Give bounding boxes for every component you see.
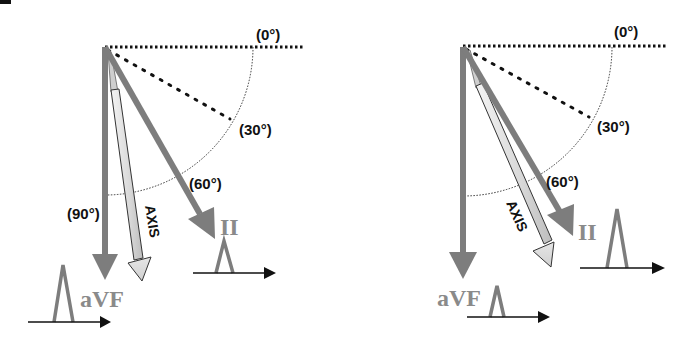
lead-ii-label: II [578,219,597,245]
corner-mark [0,0,11,4]
axis-arrow [467,50,554,267]
axis-label: AXIS [142,204,163,239]
label-30-degrees: (30°) [239,121,272,138]
hexaxial-diagram: (0°) (30°) (60°) (90°) AXIS II aVF [0,0,684,355]
panel-right: (0°) (30°) (60°) AXIS II aVF [437,23,668,323]
panel-left: (0°) (30°) (60°) (90°) AXIS II aVF [28,26,305,328]
time-arrow-icon [264,267,276,279]
time-arrow-icon [538,311,550,323]
lead-avf-label: aVF [80,286,124,312]
label-60-degrees: (60°) [546,173,579,190]
avf-arrowhead-icon [449,252,477,279]
lead-ii-label: II [220,214,239,240]
ii-waveform [193,241,276,279]
label-60-degrees: (60°) [189,175,222,192]
label-0-degrees: (0°) [256,26,280,43]
label-0-degrees: (0°) [614,23,638,40]
lead-avf-label: aVF [437,285,481,311]
avf-arrowhead-icon [92,254,118,280]
label-90-degrees: (90°) [67,205,100,222]
time-arrow-icon [100,316,111,328]
time-arrow-icon [652,262,665,274]
label-30-degrees: (30°) [597,118,630,135]
